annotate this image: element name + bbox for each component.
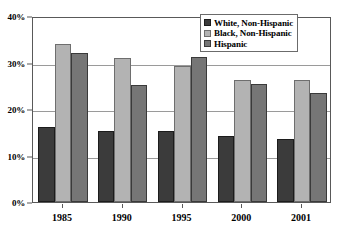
legend-item: Black, Non-Hispanic [204, 28, 293, 38]
legend: White, Non-HispanicBlack, Non-HispanicHi… [200, 14, 298, 52]
bar [55, 44, 72, 202]
bar [234, 80, 251, 202]
bar [131, 85, 148, 202]
x-tick-mark [241, 204, 242, 208]
y-tick-label: 40% [8, 12, 25, 22]
bar-chart: 0%10%20%30%40% 19851990199520002001 Whit… [0, 0, 339, 236]
bar [251, 84, 268, 202]
bar [158, 131, 175, 202]
legend-item: Hispanic [204, 39, 293, 49]
legend-label: Hispanic [214, 39, 247, 49]
bar [114, 58, 131, 202]
x-tick-mark [122, 204, 123, 208]
x-tick-mark [182, 204, 183, 208]
bar [71, 53, 88, 202]
legend-swatch-icon [204, 19, 211, 26]
y-tick-label: 10% [8, 152, 25, 162]
x-axis: 19851990199520002001 [32, 204, 331, 236]
legend-label: White, Non-Hispanic [214, 18, 293, 28]
legend-item: White, Non-Hispanic [204, 18, 293, 28]
legend-swatch-icon [204, 30, 211, 37]
legend-swatch-icon [204, 40, 211, 47]
legend-label: Black, Non-Hispanic [214, 28, 292, 38]
bar [277, 139, 294, 202]
y-tick-label: 20% [8, 105, 25, 115]
x-tick-mark [301, 204, 302, 208]
x-tick-label: 2001 [291, 212, 311, 223]
x-tick-label: 2000 [231, 212, 251, 223]
y-axis: 0%10%20%30%40% [0, 0, 32, 236]
x-tick-label: 1985 [52, 212, 72, 223]
bar [174, 66, 191, 202]
bar [98, 131, 115, 202]
bar [191, 57, 208, 202]
bar [38, 127, 55, 202]
bar [310, 93, 327, 202]
y-tick-label: 0% [12, 198, 25, 208]
x-tick-label: 1995 [172, 212, 192, 223]
x-tick-mark [62, 204, 63, 208]
bar [218, 136, 235, 202]
bar [294, 80, 311, 202]
x-tick-label: 1990 [112, 212, 132, 223]
y-tick-label: 30% [8, 59, 25, 69]
